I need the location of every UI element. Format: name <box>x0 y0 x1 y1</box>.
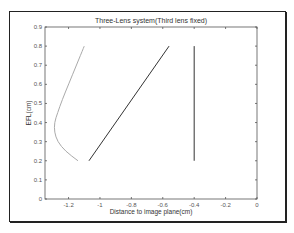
y-tick-label: 0.9 <box>34 24 43 30</box>
x-axis: -1.2-1-0.8-0.6-0.4-0.20 <box>63 27 259 208</box>
series-group <box>54 46 194 161</box>
y-tick-label: 0.1 <box>34 177 43 183</box>
x-axis-label: Distance to image plane(cm) <box>110 208 193 216</box>
chart-title: Three-Lens system(Third lens fixed) <box>95 17 207 25</box>
y-axis-label: EFL(cm) <box>25 101 33 126</box>
x-tick-label: 0 <box>255 202 259 208</box>
series-line-lens-1 <box>54 46 84 161</box>
y-tick-label: 0.8 <box>34 43 43 49</box>
y-tick-label: 0 <box>39 196 43 202</box>
x-tick-label: -0.2 <box>220 202 231 208</box>
y-tick-label: 0.7 <box>34 62 43 68</box>
plot-area <box>45 27 257 199</box>
series-line-lens-2 <box>89 46 169 161</box>
y-tick-label: 0.6 <box>34 81 43 87</box>
x-tick-label: -1 <box>97 202 103 208</box>
y-tick-label: 0.5 <box>34 100 43 106</box>
y-axis: 00.10.20.30.40.50.60.70.80.9 <box>34 24 257 202</box>
y-tick-label: 0.3 <box>34 139 43 145</box>
y-tick-label: 0.2 <box>34 158 43 164</box>
y-tick-label: 0.4 <box>34 120 43 126</box>
x-tick-label: -1.2 <box>63 202 74 208</box>
chart: Three-Lens system(Third lens fixed) -1.2… <box>0 0 294 233</box>
